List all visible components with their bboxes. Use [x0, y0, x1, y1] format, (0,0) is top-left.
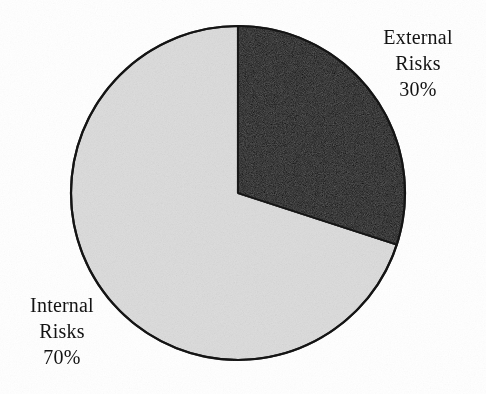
pie-chart-figure: External Risks 30% Internal Risks 70%: [0, 0, 486, 394]
pie-label-external-risks-line1: External: [352, 24, 484, 50]
pie-label-external-risks-line2: Risks: [352, 50, 484, 76]
pie-label-internal-risks: Internal Risks 70%: [2, 292, 122, 370]
pie-label-internal-risks-line2: Risks: [2, 318, 122, 344]
pie-label-internal-risks-value: 70%: [2, 344, 122, 370]
pie-label-external-risks: External Risks 30%: [352, 24, 484, 102]
pie-label-internal-risks-line1: Internal: [2, 292, 122, 318]
pie-label-external-risks-value: 30%: [352, 76, 484, 102]
